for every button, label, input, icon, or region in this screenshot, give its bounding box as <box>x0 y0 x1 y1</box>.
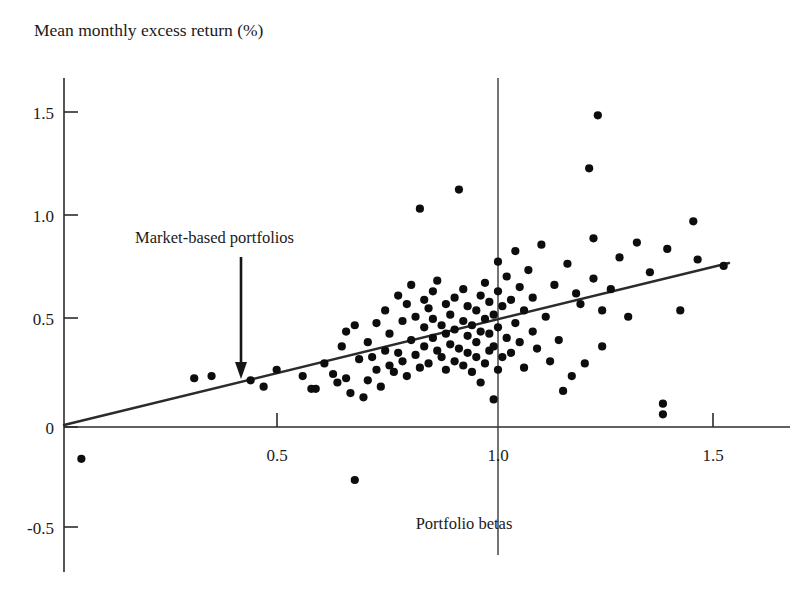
scatter-point <box>490 342 498 350</box>
scatter-point <box>615 253 623 261</box>
scatter-point <box>477 291 485 299</box>
scatter-point <box>299 372 307 380</box>
scatter-point <box>498 302 506 310</box>
scatter-point <box>451 325 459 333</box>
scatter-point <box>485 298 493 306</box>
scatter-point <box>585 164 593 172</box>
scatter-point <box>416 364 424 372</box>
scatter-point <box>207 372 215 380</box>
scatter-point <box>416 205 424 213</box>
scatter-point <box>624 313 632 321</box>
scatter-point <box>333 378 341 386</box>
scatter-point <box>494 258 502 266</box>
scatter-point <box>472 338 480 346</box>
scatter-point <box>77 455 85 463</box>
scatter-points-layer <box>77 111 728 484</box>
scatter-point <box>494 287 502 295</box>
scatter-point <box>572 289 580 297</box>
scatter-point <box>390 368 398 376</box>
scatter-point <box>351 476 359 484</box>
scatter-point <box>464 349 472 357</box>
scatter-point <box>676 306 684 314</box>
scatter-point <box>329 370 337 378</box>
scatter-point <box>498 353 506 361</box>
scatter-point <box>351 321 359 329</box>
annotation-arrow-head <box>235 362 247 379</box>
scatter-point <box>398 357 406 365</box>
scatter-point <box>377 383 385 391</box>
scatter-point <box>481 279 489 287</box>
scatter-point <box>342 374 350 382</box>
scatter-point <box>477 378 485 386</box>
scatter-point <box>364 376 372 384</box>
scatter-point <box>481 359 489 367</box>
scatter-point <box>411 313 419 321</box>
scatter-point <box>689 217 697 225</box>
scatter-point <box>490 311 498 319</box>
scatter-point <box>381 347 389 355</box>
scatter-point <box>394 291 402 299</box>
scatter-point <box>472 353 480 361</box>
scatter-point <box>437 353 445 361</box>
scatter-point <box>273 366 281 374</box>
scatter-point <box>433 277 441 285</box>
scatter-point <box>459 317 467 325</box>
scatter-point <box>459 361 467 369</box>
scatter-point <box>346 389 354 397</box>
security-market-line <box>64 263 729 425</box>
scatter-point <box>507 296 515 304</box>
scatter-point <box>451 357 459 365</box>
scatter-point <box>437 321 445 329</box>
scatter-point <box>589 234 597 242</box>
scatter-point <box>407 281 415 289</box>
scatter-point <box>407 336 415 344</box>
scatter-point <box>320 359 328 367</box>
scatter-point <box>516 338 524 346</box>
y-tick-label-0: 0 <box>46 419 55 438</box>
scatter-point <box>459 285 467 293</box>
scatter-point <box>429 315 437 323</box>
scatter-point <box>646 268 654 276</box>
scatter-point <box>511 319 519 327</box>
scatter-point <box>342 328 350 336</box>
y-tick-label-1-5: 1.5 <box>33 104 54 123</box>
scatter-point <box>633 238 641 246</box>
scatter-point <box>424 359 432 367</box>
scatter-point <box>190 374 198 382</box>
scatter-point <box>368 353 376 361</box>
scatter-point <box>581 359 589 367</box>
scatter-point <box>464 332 472 340</box>
scatter-point <box>372 319 380 327</box>
scatter-point <box>420 323 428 331</box>
scatter-point <box>659 410 667 418</box>
scatter-point <box>446 311 454 319</box>
scatter-point <box>563 260 571 268</box>
scatter-point <box>472 306 480 314</box>
scatter-point <box>420 342 428 350</box>
scatter-point <box>598 342 606 350</box>
scatter-point <box>511 247 519 255</box>
scatter-point <box>247 376 255 384</box>
x-tick-label-0-5: 0.5 <box>266 446 287 465</box>
scatter-point <box>355 355 363 363</box>
scatter-point <box>477 328 485 336</box>
scatter-point <box>503 272 511 280</box>
scatter-point <box>468 321 476 329</box>
y-axis-title: Mean monthly excess return (%) <box>34 20 264 40</box>
scatter-point <box>542 313 550 321</box>
scatter-point <box>364 338 372 346</box>
scatter-point <box>546 357 554 365</box>
scatter-point <box>507 349 515 357</box>
scatter-point <box>403 372 411 380</box>
x-tick-label-1-5: 1.5 <box>702 446 723 465</box>
scatter-point <box>520 306 528 314</box>
scatter-point <box>403 300 411 308</box>
y-tick-label-neg-0-5: -0.5 <box>27 519 54 538</box>
scatter-point <box>494 366 502 374</box>
scatter-point <box>398 317 406 325</box>
annotation-label: Market-based portfolios <box>135 228 294 247</box>
scatter-point <box>420 296 428 304</box>
scatter-point <box>481 315 489 323</box>
scatter-point <box>594 111 602 119</box>
scatter-point <box>516 283 524 291</box>
